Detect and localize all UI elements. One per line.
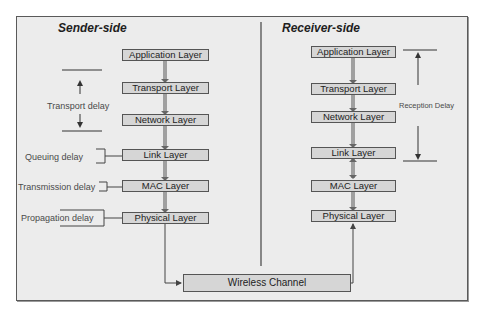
receiver-link-layer: Link Layer <box>311 147 396 159</box>
sender-side-title: Sender-side <box>58 21 127 35</box>
receiver-side-title: Receiver-side <box>282 21 360 35</box>
propagation-delay-label: Propagation delay <box>21 213 94 223</box>
receiver-network-layer: Network Layer <box>311 111 396 123</box>
receiver-application-layer: Application Layer <box>311 46 396 58</box>
wireless-channel: Wireless Channel <box>183 274 351 292</box>
queuing-delay-label: Queuing delay <box>25 152 83 162</box>
receiver-transport-layer: Transport Layer <box>311 83 396 95</box>
sender-application-layer: Application Layer <box>122 49 209 61</box>
reception-delay-label: Reception Delay <box>399 101 454 110</box>
diagram-frame <box>16 16 468 301</box>
sender-mac-layer: MAC Layer <box>122 180 209 192</box>
sender-physical-layer: Physical Layer <box>122 212 209 224</box>
transmission-delay-label: Transmission delay <box>18 182 95 192</box>
transport-delay-label: Transport delay <box>47 101 109 111</box>
sender-link-layer: Link Layer <box>122 149 209 161</box>
sender-transport-layer: Transport Layer <box>122 82 209 94</box>
receiver-mac-layer: MAC Layer <box>311 180 396 192</box>
receiver-physical-layer: Physical Layer <box>311 210 396 222</box>
sender-network-layer: Network Layer <box>122 114 209 126</box>
